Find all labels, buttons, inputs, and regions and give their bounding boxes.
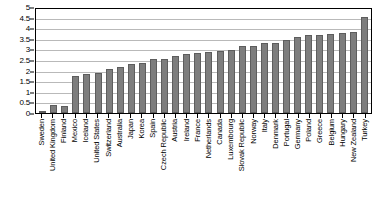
x-tick-mark	[298, 114, 299, 118]
x-tick-mark	[63, 114, 64, 118]
x-tick-label: Canada	[216, 119, 224, 145]
x-tick-mark	[186, 114, 187, 118]
x-axis-label-slot: New Zealand	[348, 119, 359, 207]
x-tick-label: Poland	[305, 119, 313, 142]
y-axis: 00.511.522.533.544.55	[0, 8, 32, 114]
x-tick-label: Finland	[60, 119, 68, 143]
x-axis-label-slot: Norway	[248, 119, 259, 207]
bar	[217, 51, 224, 113]
y-tick-label: 3.5	[19, 36, 30, 44]
bar	[39, 111, 46, 113]
y-tick-mark	[30, 39, 34, 40]
x-tick-label: United Kingdom	[49, 119, 57, 171]
bar	[205, 52, 212, 113]
y-tick-mark	[30, 8, 34, 9]
bar	[339, 33, 346, 113]
x-tick-mark	[119, 114, 120, 118]
x-axis-label-slot: Iceland	[81, 119, 92, 207]
bar	[294, 37, 301, 113]
bars-group	[36, 9, 371, 113]
x-axis-label-slot: Ireland	[181, 119, 192, 207]
x-tick-mark	[365, 114, 366, 118]
x-tick-mark	[242, 114, 243, 118]
y-tick-mark	[30, 29, 34, 30]
bar	[161, 59, 168, 113]
x-tick-label: Australia	[116, 119, 124, 147]
x-axis-label-slot: Slovak Republic	[237, 119, 248, 207]
x-tick-label: Germany	[294, 119, 302, 149]
x-tick-label: Korea	[138, 119, 146, 139]
y-tick-mark	[30, 92, 34, 93]
x-tick-mark	[331, 114, 332, 118]
x-tick-mark	[175, 114, 176, 118]
x-tick-mark	[153, 114, 154, 118]
bar	[172, 56, 179, 113]
bar	[72, 76, 79, 113]
x-tick-mark	[86, 114, 87, 118]
bar	[128, 64, 135, 113]
y-tick-mark	[30, 114, 34, 115]
x-tick-label: Denmark	[272, 119, 280, 149]
x-axis-label-slot: Sweden	[36, 119, 47, 207]
x-tick-label: Ireland	[183, 119, 191, 141]
x-axis-label-slot: Mexico	[70, 119, 81, 207]
x-tick-label: Greece	[316, 119, 324, 143]
x-tick-mark	[253, 114, 254, 118]
y-tick-label: 0.5	[19, 99, 30, 107]
bar	[228, 50, 235, 113]
bar	[183, 54, 190, 113]
x-axis-label-slot: Czech Republic	[159, 119, 170, 207]
x-axis-label-slot: Italy	[259, 119, 270, 207]
y-tick-mark	[30, 61, 34, 62]
x-tick-label: Spain	[149, 119, 157, 138]
bar	[50, 105, 57, 113]
bar	[283, 40, 290, 113]
bar	[150, 59, 157, 113]
x-tick-mark	[164, 114, 165, 118]
x-tick-mark	[41, 114, 42, 118]
bar	[327, 34, 334, 114]
x-axis-label-slot: Portugal	[282, 119, 293, 207]
x-tick-mark	[264, 114, 265, 118]
x-tick-label: United States	[93, 119, 101, 163]
x-tick-label: Sweden	[38, 119, 46, 146]
x-tick-label: Iceland	[82, 119, 90, 143]
x-tick-label: Luxembourg	[227, 119, 235, 160]
x-tick-mark	[287, 114, 288, 118]
x-axis-label-slot: Japan	[125, 119, 136, 207]
x-tick-mark	[52, 114, 53, 118]
x-tick-mark	[197, 114, 198, 118]
y-tick-label: 1.5	[19, 78, 30, 86]
bar	[83, 74, 90, 113]
x-tick-label: Japan	[127, 119, 135, 139]
x-axis-label-slot: Canada	[215, 119, 226, 207]
x-tick-label: New Zealand	[350, 119, 358, 162]
bar	[106, 69, 113, 113]
x-tick-label: Turkey	[361, 119, 369, 141]
bar	[194, 53, 201, 113]
x-axis-label-slot: Korea	[136, 119, 147, 207]
x-tick-label: Switzerland	[105, 119, 113, 157]
x-axis-ticks	[35, 114, 372, 118]
x-tick-mark	[231, 114, 232, 118]
x-tick-mark	[353, 114, 354, 118]
x-tick-mark	[130, 114, 131, 118]
x-tick-label: Mexico	[71, 119, 79, 142]
x-tick-label: France	[194, 119, 202, 142]
x-tick-label: Czech Republic	[160, 119, 168, 170]
x-tick-mark	[208, 114, 209, 118]
x-tick-mark	[75, 114, 76, 118]
x-axis-label-slot: Belgium	[326, 119, 337, 207]
x-tick-label: Norway	[250, 119, 258, 144]
bar	[316, 35, 323, 113]
bar	[272, 43, 279, 113]
y-tick-mark	[30, 71, 34, 72]
x-tick-mark	[141, 114, 142, 118]
x-tick-mark	[220, 114, 221, 118]
bar	[61, 106, 68, 113]
x-axis-label-slot: Netherlands	[203, 119, 214, 207]
bar	[139, 63, 146, 113]
bar-chart: 00.511.522.533.544.55 SwedenUnited Kingd…	[0, 0, 390, 207]
x-axis-label-slot: United States	[92, 119, 103, 207]
x-tick-mark	[275, 114, 276, 118]
